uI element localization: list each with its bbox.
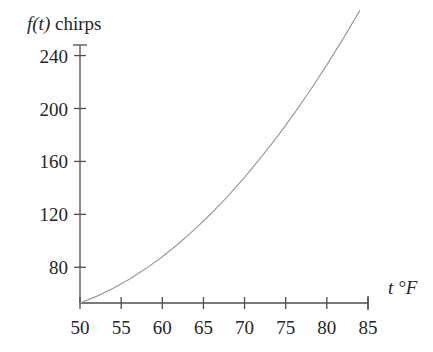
x-tick-label: 50 xyxy=(71,318,90,337)
x-axis-title: t °F xyxy=(388,278,417,297)
x-axis-title-unit: °F xyxy=(398,277,417,298)
y-tick-label: 120 xyxy=(18,205,68,224)
chirps-curve xyxy=(80,11,360,303)
y-tick-label: 160 xyxy=(18,152,68,171)
y-axis-title: f(t) chirps xyxy=(27,14,101,33)
y-tick-label: 80 xyxy=(18,258,68,277)
y-tick-label: 240 xyxy=(18,46,68,65)
x-tick-label: 65 xyxy=(194,318,213,337)
x-tick-label: 70 xyxy=(235,318,254,337)
x-tick-label: 80 xyxy=(317,318,336,337)
y-tick-label: 200 xyxy=(18,99,68,118)
y-axis-title-symbol: f(t) xyxy=(27,13,50,34)
x-tick-label: 55 xyxy=(112,318,131,337)
x-tick-label: 75 xyxy=(276,318,295,337)
x-tick-label: 60 xyxy=(153,318,172,337)
y-axis-title-unit: chirps xyxy=(55,13,101,34)
x-tick-label: 85 xyxy=(359,318,378,337)
chart-canvas: f(t) chirps t °F 80120160200240 50556065… xyxy=(0,0,433,352)
